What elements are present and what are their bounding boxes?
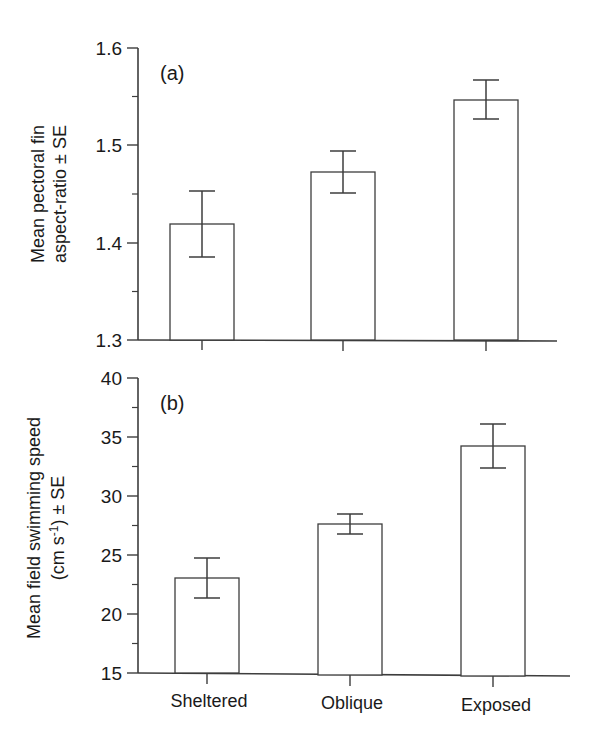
panel-a-bar-exposed: [454, 100, 518, 340]
panel-b-ytick-label-40: 40: [101, 368, 122, 389]
panel-b-bar-oblique: [318, 524, 382, 675]
panel-b-ylabel-unit-post: ) ± SE: [48, 476, 68, 526]
figure-svg: Mean pectoral fin aspect-ratio ± SE (a) …: [0, 0, 590, 743]
panel-b: Mean field swimming speed (cm s-1) ± SE …: [24, 368, 570, 715]
panel-b-ytick-label-20: 20: [101, 604, 122, 625]
panel-b-ytick-label-15: 15: [101, 663, 122, 684]
panel-b-ytick-label-25: 25: [101, 545, 122, 566]
category-label-sheltered: Sheltered: [170, 691, 247, 711]
category-label-exposed: Exposed: [461, 695, 531, 715]
panel-b-ylabel-unit-sup: -1: [47, 525, 61, 536]
panel-a-ytick-label-1.6: 1.6: [96, 38, 122, 59]
panel-b-ytick-label-35: 35: [101, 427, 122, 448]
panel-a-ytick-label-1.4: 1.4: [96, 233, 123, 254]
panel-b-tag: (b): [160, 392, 184, 414]
panel-b-bar-exposed: [461, 446, 525, 676]
panel-a-ylabel-line2: aspect-ratio ± SE: [50, 125, 70, 263]
figure-container: Mean pectoral fin aspect-ratio ± SE (a) …: [0, 0, 590, 743]
panel-b-ytick-label-30: 30: [101, 486, 122, 507]
panel-a-bar-oblique: [311, 172, 375, 340]
panel-a-tag: (a): [160, 62, 184, 84]
panel-b-ylabel-line2: (cm s-1) ± SE: [47, 476, 68, 581]
panel-a-ytick-label-1.3: 1.3: [96, 330, 122, 351]
panel-a-ytick-label-1.5: 1.5: [96, 135, 122, 156]
panel-a: Mean pectoral fin aspect-ratio ± SE (a) …: [28, 38, 557, 351]
panel-b-ylabel-unit-pre: (cm s: [48, 536, 68, 580]
panel-a-ylabel-line1: Mean pectoral fin: [28, 125, 48, 263]
category-label-oblique: Oblique: [321, 693, 383, 713]
panel-b-ylabel-line1: Mean field swimming speed: [24, 417, 44, 639]
